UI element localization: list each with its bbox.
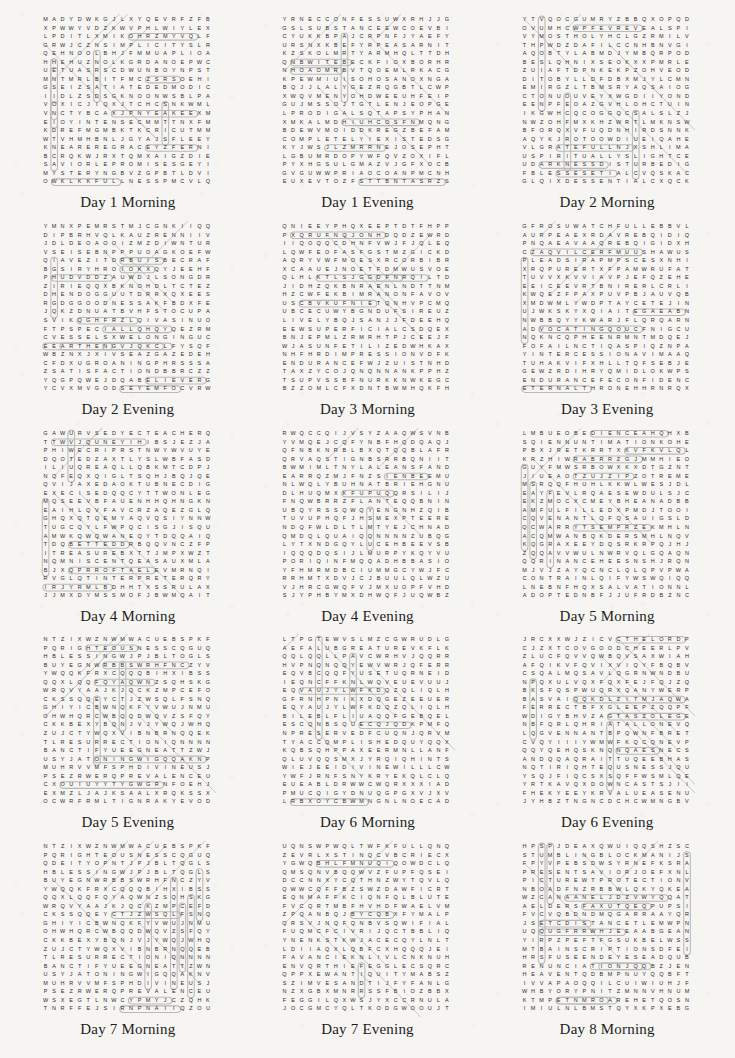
grid-letter: B (343, 377, 347, 383)
grid-letter: C (78, 42, 82, 48)
grid-letter: E (403, 963, 407, 969)
grid-letter: Q (112, 489, 117, 495)
grid-letter: L (352, 136, 355, 142)
grid-letter: Q (420, 549, 425, 555)
grid-letter: E (369, 300, 373, 306)
grid-letter: B (120, 662, 124, 668)
word-search-grid[interactable]: GAWURVSEDYECTEACHERQTTWVJQUNEYIHIBSJEZJA… (40, 428, 216, 604)
grid-letter: A (660, 248, 664, 254)
grid-letter: R (531, 954, 535, 960)
grid-letter: R (163, 790, 167, 796)
grid-letter: S (61, 266, 65, 272)
grid-letter: Q (283, 223, 288, 229)
grid-letter: O (617, 351, 622, 357)
word-search-grid[interactable]: MADYDWKGJLXYQEVRFZFBXPWWYVDZKWVPHLWIYLEX… (40, 14, 216, 190)
grid-letter: W (616, 119, 622, 125)
grid-letter: Z (292, 385, 296, 391)
grid-letter: C (583, 498, 587, 504)
grid-letter: Y (283, 773, 287, 779)
word-search-grid[interactable]: YRNECCONFESSUWXRHJJGGSLSUBSTANCEEWCOEVBI… (279, 14, 455, 190)
grid-letter: B (651, 929, 655, 935)
word-search-grid[interactable]: RWQCCQIJVSYZAAQWSVNBYVMQEJCQFYNBFHQDQAQJ… (279, 428, 455, 604)
grid-letter: E (69, 954, 73, 960)
grid-letter: C (428, 799, 432, 805)
grid-letter: E (677, 886, 681, 892)
grid-letter: T (617, 756, 621, 762)
grid-letter: A (394, 430, 398, 436)
grid-letter: V (369, 869, 373, 875)
grid-letter: U (377, 489, 381, 495)
grid-letter: E (129, 747, 133, 753)
grid-letter: P (352, 351, 356, 357)
grid-letter: W (282, 765, 288, 771)
grid-letter: Q (540, 266, 545, 272)
grid-letter: E (197, 136, 201, 142)
grid-letter: A (420, 33, 424, 39)
grid-letter: L (360, 464, 363, 470)
grid-letter: B (146, 671, 150, 677)
grid-letter: N (523, 765, 527, 771)
word-search-grid[interactable]: UQNSWPWQLTWFKFULLQNQZEVRLXSTINQCVBCRIECX… (279, 841, 455, 1017)
grid-letter: L (121, 325, 124, 331)
grid-letter: B (112, 662, 116, 668)
grid-letter: V (685, 532, 689, 538)
grid-letter: Z (369, 472, 373, 478)
grid-letter: S (685, 248, 689, 254)
word-search-grid[interactable]: NTZIXWZNWMWACUEBSPKFPQRIGHTEOUSNESSCQGUQ… (40, 634, 216, 810)
grid-letter: E (557, 730, 561, 736)
word-search-grid[interactable]: LTPGTEWVSLMZCGWRUDLGAEFALUBGREATUREVKFLK… (279, 634, 455, 810)
grid-letter: S (61, 498, 65, 504)
grid-letter: C (651, 178, 655, 184)
grid-letter: U (557, 679, 561, 685)
grid-letter: E (600, 498, 604, 504)
grid-letter: C (565, 25, 569, 31)
grid-letter: N (180, 240, 184, 246)
grid-letter: A (437, 782, 441, 788)
grid-letter: R (146, 662, 150, 668)
grid-letter: Q (676, 16, 681, 22)
grid-letter: J (686, 334, 689, 340)
grid-letter: I (404, 765, 406, 771)
grid-letter: D (317, 549, 321, 555)
grid-letter: I (293, 317, 295, 323)
grid-letter: L (326, 653, 329, 659)
grid-letter: W (394, 765, 400, 771)
grid-letter: X (326, 575, 330, 581)
grid-letter: R (677, 688, 681, 694)
word-search-grid[interactable]: QNIEEYPHQXEEPTDTFHPPPXQRUFNQJONHDQDZEWRD… (279, 221, 455, 397)
grid-letter: C (642, 877, 646, 883)
grid-letter: I (669, 455, 671, 461)
grid-letter: L (437, 773, 440, 779)
word-search-grid[interactable]: LMBUEOBEDIENCEAHQHXBSQIENNUNTIMATIONKOHE… (519, 428, 695, 604)
grid-canvas: YMNXPEMRSTMJCGNKIIQQDIPBRHVQLKAUZRENNIIV… (40, 221, 216, 397)
grid-letter: F (180, 696, 184, 702)
grid-letter: V (78, 980, 82, 986)
grid-letter: O (411, 76, 416, 82)
grid-letter: E (394, 524, 398, 530)
grid-letter: K (78, 886, 82, 892)
word-search-grid[interactable]: YTVQOCGUMRYZBBQXOPQDOVUMHCWPFEVREVEALSPI… (519, 14, 695, 190)
word-search-grid[interactable]: GFROSUWATCHFULLEBBVLAURPEAEXRDAVREBQIDIQ… (519, 221, 695, 397)
grid-letter: A (112, 481, 116, 487)
puzzle: QNIEEYPHQXEEPTDTFHPPPXQRUFNQJONHDQDZEWRD… (248, 221, 488, 428)
grid-letter: I (198, 592, 200, 598)
word-search-grid[interactable]: YMNXPEMRSTMJCGNKIIQQDIPBRHVQLKAUZRENNIIV… (40, 221, 216, 397)
grid-letter: O (334, 101, 339, 107)
grid-letter: W (137, 894, 143, 900)
grid-letter: U (583, 549, 587, 555)
grid-letter: R (625, 231, 629, 237)
grid-letter: M (385, 566, 390, 572)
grid-letter: P (583, 988, 587, 994)
grid-letter: M (308, 575, 313, 581)
grid-letter: P (300, 971, 304, 977)
grid-letter: J (617, 50, 620, 56)
grid-letter: R (103, 662, 107, 668)
word-search-grid[interactable]: HPSPJDEAXQWUIQQSHZSCSTUMBLINGBLOCKMANIJS… (519, 841, 695, 1017)
grid-letter: M (548, 532, 553, 538)
grid-letter: J (70, 42, 73, 48)
grid-letter: A (651, 852, 655, 858)
word-search-grid[interactable]: JRCXXWJZICVCTHELORDPCJZXTCOVGOODCHEERLPV… (519, 634, 695, 810)
grid-letter: R (154, 127, 158, 133)
grid-letter: L (634, 223, 637, 229)
word-search-grid[interactable]: NTZIXWZNWMWACUEBSPKFPQRIGHTEOUSNESSCQGUQ… (40, 841, 216, 1017)
